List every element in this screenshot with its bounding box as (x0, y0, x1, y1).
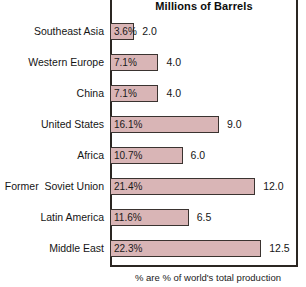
bar-value-label: 12.0 (263, 181, 283, 192)
chart-title: Millions of Barrels (110, 0, 298, 12)
bar-wrapper: 3.6%2.0 (110, 23, 157, 40)
bar: 21.4% (110, 178, 255, 195)
category-label: United States (0, 119, 104, 130)
bar-value-label: 4.0 (166, 57, 181, 68)
bar-percent-label: 11.6% (111, 213, 142, 223)
bar: 10.7% (110, 147, 183, 164)
bar-wrapper: 7.1%4.0 (110, 85, 181, 102)
bar-value-label: 9.0 (227, 119, 242, 130)
category-label: China (0, 88, 104, 99)
bar-percent-label: 21.4% (111, 182, 142, 192)
category-label: Africa (0, 150, 104, 161)
bar-wrapper: 16.1%9.0 (110, 116, 242, 133)
bar-row: Africa10.7%6.0 (0, 140, 306, 171)
bar-percent-label: 10.7% (111, 151, 142, 161)
bar: 3.6% (110, 23, 134, 40)
bar: 7.1% (110, 85, 158, 102)
category-label: Middle East (0, 243, 104, 254)
bar-rows-container: Southeast Asia3.6%2.0Western Europe7.1%4… (0, 16, 306, 264)
bar: 16.1% (110, 116, 219, 133)
bar-percent-label: 7.1% (111, 89, 137, 99)
bar-value-label: 12.5 (269, 243, 289, 254)
bar-value-label: 4.0 (166, 88, 181, 99)
bar: 7.1% (110, 54, 158, 71)
category-label: Former Soviet Union (0, 181, 104, 192)
category-label: Latin America (0, 212, 104, 223)
bar-row: Middle East22.3%12.5 (0, 233, 306, 264)
category-label: Southeast Asia (0, 26, 104, 37)
bar-wrapper: 10.7%6.0 (110, 147, 205, 164)
bar-wrapper: 7.1%4.0 (110, 54, 181, 71)
bar-percent-label: 7.1% (111, 58, 137, 68)
bar-wrapper: 11.6%6.5 (110, 209, 211, 226)
bar-percent-label: 16.1% (111, 120, 142, 130)
bar: 22.3% (110, 240, 261, 257)
bar-row: China7.1%4.0 (0, 78, 306, 109)
bar-row: Western Europe7.1%4.0 (0, 47, 306, 78)
bar-wrapper: 22.3%12.5 (110, 240, 290, 257)
chart-footnote: % are % of world's total production (110, 272, 306, 283)
bar-value-label: 6.0 (191, 150, 206, 161)
oil-production-bar-chart: Millions of Barrels Southeast Asia3.6%2.… (0, 0, 306, 287)
bar-row: Former Soviet Union21.4%12.0 (0, 171, 306, 202)
bar-wrapper: 21.4%12.0 (110, 178, 284, 195)
bar-percent-label: 3.6% (111, 27, 137, 37)
bar-value-label: 6.5 (197, 212, 212, 223)
bar-row: United States16.1%9.0 (0, 109, 306, 140)
bar: 11.6% (110, 209, 189, 226)
category-label: Western Europe (0, 57, 104, 68)
bar-value-label: 2.0 (142, 26, 157, 37)
bar-row: Latin America11.6%6.5 (0, 202, 306, 233)
bar-row: Southeast Asia3.6%2.0 (0, 16, 306, 47)
bar-percent-label: 22.3% (111, 244, 142, 254)
